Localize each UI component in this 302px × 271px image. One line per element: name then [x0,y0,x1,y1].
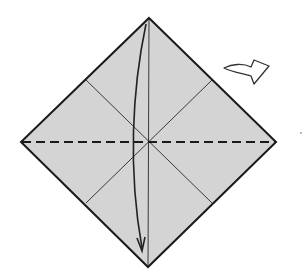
turn-over-icon [224,60,269,84]
origami-diagram [0,0,302,271]
speck-mark [300,132,302,134]
